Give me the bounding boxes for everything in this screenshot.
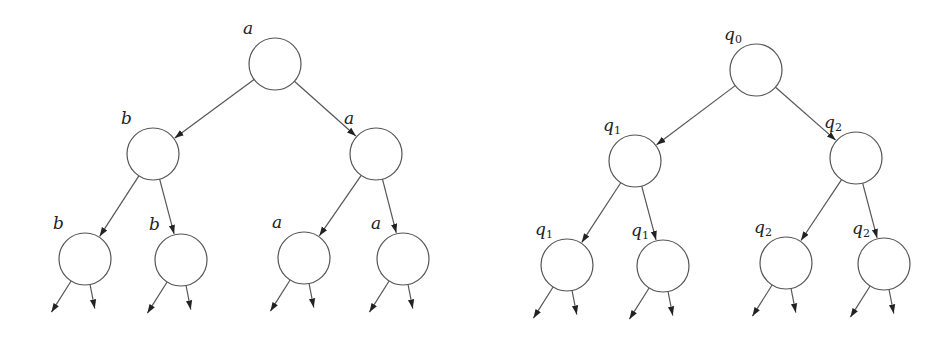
- node-label: a: [272, 212, 282, 232]
- leaf-arrow-left: [369, 281, 389, 312]
- node-label: b: [121, 108, 132, 128]
- node-label: q1: [535, 219, 553, 241]
- edge-arrow: [100, 176, 139, 237]
- tree-node: [541, 239, 593, 291]
- leaf-arrow-right: [90, 285, 95, 309]
- edge-arrow: [175, 79, 254, 138]
- leaf-arrow-right: [572, 291, 577, 315]
- node-label: a: [344, 108, 354, 128]
- node-label: q2: [852, 218, 870, 240]
- leaf-arrow-left: [270, 280, 290, 311]
- leaf-arrow-left: [533, 287, 553, 318]
- tree-node: [127, 128, 179, 180]
- leaf-arrow-right: [408, 285, 413, 309]
- edge-arrow: [801, 180, 842, 241]
- node-label: b: [149, 214, 160, 234]
- edge-arrow: [382, 179, 396, 233]
- tree-node: [278, 232, 330, 284]
- node-label: b: [53, 213, 64, 233]
- node-subscript: 2: [765, 226, 772, 239]
- node-subscript: 0: [735, 33, 742, 46]
- node-label: q2: [824, 112, 842, 134]
- tree-node: [858, 238, 910, 290]
- edge-arrow: [657, 86, 736, 145]
- node-subscript: 2: [835, 121, 842, 134]
- tree-node: [609, 135, 661, 187]
- tree-node: [760, 237, 812, 289]
- leaf-arrow-right: [186, 286, 191, 310]
- node-subscript: 1: [642, 229, 649, 242]
- node-label: q2: [754, 217, 772, 239]
- node-label: q1: [603, 115, 621, 137]
- tree-node: [155, 234, 207, 286]
- leaf-arrow-left: [850, 286, 870, 317]
- node-label: a: [243, 18, 253, 38]
- node-subscript: 1: [614, 124, 621, 137]
- edge-arrow: [160, 179, 174, 234]
- leaf-arrow-right: [791, 289, 796, 313]
- node-label: q1: [631, 220, 649, 242]
- node-label: a: [371, 213, 381, 233]
- node-label: q0: [724, 24, 742, 46]
- tree-node: [350, 128, 402, 180]
- leaf-arrow-right: [668, 292, 673, 316]
- right-tree-states: q0q1q2q1q1q2q2: [533, 24, 910, 319]
- leaf-arrow-left: [629, 288, 649, 319]
- tree-node: [730, 44, 782, 96]
- leaf-arrow-right: [309, 284, 314, 308]
- tree-node: [59, 233, 111, 285]
- edge-arrow: [319, 175, 361, 235]
- tree-diagrams: ababbaa q0q1q2q1q1q2q2: [0, 0, 950, 362]
- tree-node: [249, 38, 301, 90]
- edge-arrow: [582, 183, 621, 243]
- leaf-arrow-left: [752, 285, 772, 316]
- node-subscript: 2: [863, 227, 870, 240]
- tree-node: [377, 233, 429, 285]
- tree-node: [830, 132, 882, 184]
- node-subscript: 1: [546, 228, 553, 241]
- left-tree-symbols: ababbaa: [51, 18, 429, 313]
- leaf-arrow-left: [51, 281, 71, 312]
- leaf-arrow-right: [889, 290, 894, 314]
- leaf-arrow-left: [147, 282, 167, 313]
- tree-node: [637, 240, 689, 292]
